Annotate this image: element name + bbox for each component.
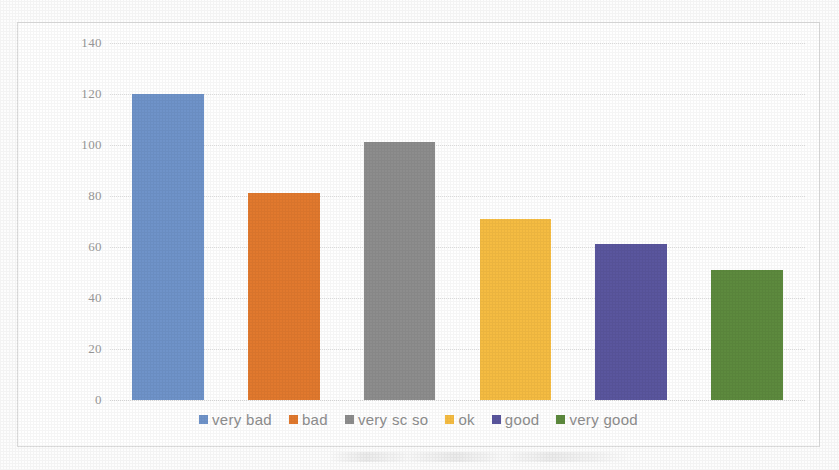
plot-area: 140120100806040200 — [66, 43, 805, 400]
y-axis-tick-label: 0 — [66, 392, 102, 408]
y-axis-tick-label: 40 — [66, 290, 102, 306]
chart-legend: very badbadvery sc sookgoodvery good — [18, 411, 819, 428]
legend-label: very sc so — [358, 411, 429, 428]
legend-swatch-icon — [199, 415, 208, 424]
bar-very-bad[interactable] — [132, 94, 204, 400]
y-axis-tick-label: 20 — [66, 341, 102, 357]
bar-slot — [132, 43, 204, 400]
bar-slot — [595, 43, 667, 400]
legend-item[interactable]: very bad — [199, 411, 272, 428]
scanned-page: 140120100806040200 very badbadvery sc so… — [0, 0, 839, 470]
bar-good[interactable] — [595, 244, 667, 400]
legend-label: bad — [302, 411, 328, 428]
bar-slot — [480, 43, 552, 400]
legend-item[interactable]: bad — [289, 411, 328, 428]
legend-swatch-icon — [345, 415, 354, 424]
y-axis-tick-label: 120 — [66, 86, 102, 102]
bar-slot — [364, 43, 436, 400]
legend-item[interactable]: ok — [445, 411, 474, 428]
bar-slot — [711, 43, 783, 400]
y-axis-tick-label: 100 — [66, 137, 102, 153]
y-gridline — [110, 400, 805, 401]
bar-slot — [248, 43, 320, 400]
bar-series — [110, 43, 805, 400]
legend-item[interactable]: very good — [556, 411, 638, 428]
legend-swatch-icon — [445, 415, 454, 424]
legend-label: good — [505, 411, 540, 428]
bar-very-so-so[interactable] — [364, 142, 436, 400]
legend-label: very bad — [212, 411, 272, 428]
chart-frame: 140120100806040200 very badbadvery sc so… — [17, 22, 820, 447]
legend-item[interactable]: good — [492, 411, 540, 428]
legend-item[interactable]: very sc so — [345, 411, 429, 428]
legend-swatch-icon — [492, 415, 501, 424]
bar-very-good[interactable] — [711, 270, 783, 400]
bar-ok[interactable] — [480, 219, 552, 400]
y-axis-tick-label: 80 — [66, 188, 102, 204]
legend-swatch-icon — [289, 415, 298, 424]
y-axis-tick-label: 60 — [66, 239, 102, 255]
bar-bad[interactable] — [248, 193, 320, 400]
legend-label: very good — [569, 411, 638, 428]
scan-artifact-smudge — [330, 452, 630, 462]
y-axis-tick-label: 140 — [66, 35, 102, 51]
legend-label: ok — [458, 411, 474, 428]
legend-swatch-icon — [556, 415, 565, 424]
